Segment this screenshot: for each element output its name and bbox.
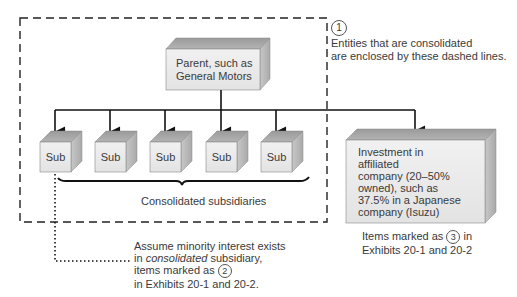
affiliate-line-1: Investment in (358, 146, 423, 158)
minority-note-line4: in Exhibits 20-1 and 20-2. (134, 278, 259, 290)
affiliate-note-line2: Exhibits 20-1 and 20-2 (362, 244, 472, 256)
sub-label-5: Sub (261, 151, 292, 163)
sub-label-1: Sub (40, 151, 71, 163)
affiliate-label: Investment in affiliated company (20–50%… (358, 146, 461, 218)
boundary-note-line2: are enclosed by these dashed lines. (331, 50, 507, 62)
minority-note-line3-prefix: items marked as (134, 264, 215, 276)
affiliate-line-3: company (20–50% (358, 170, 450, 182)
minority-note-line2-prefix: in (134, 252, 143, 264)
minority-note-line2-suffix: subsidiary, (210, 252, 262, 264)
subsidiaries-caption: Consolidated subsidiaries (141, 195, 266, 208)
affiliate-line-2: affiliated (358, 158, 399, 170)
sub-label-4: Sub (206, 151, 237, 163)
marker-1-icon: 1 (331, 20, 347, 36)
parent-label-line1: Parent, such as (176, 57, 252, 69)
sub-label-2: Sub (95, 151, 126, 163)
minority-interest-note: Assume minority interest exists in conso… (134, 240, 286, 290)
minority-interest-leader (55, 174, 130, 261)
minority-note-line2-italic: consolidated (146, 252, 208, 264)
affiliate-line-4: owned), such as (358, 182, 438, 194)
boundary-note-line1: Entities that are consolidated (331, 37, 472, 49)
affiliate-line-6: company (Isuzu) (358, 206, 439, 218)
marker-3-icon: 3 (446, 230, 460, 244)
sub-label-3: Sub (150, 151, 181, 163)
subsidiaries-brace (58, 177, 309, 185)
parent-label-line2: General Motors (176, 70, 252, 82)
affiliate-note: Items marked as 3 in Exhibits 20-1 and 2… (362, 230, 472, 257)
minority-note-line1: Assume minority interest exists (134, 240, 286, 252)
marker-2-icon: 2 (218, 264, 232, 278)
connector-lines (55, 90, 415, 132)
boundary-note: 1 Entities that are consolidated are enc… (331, 20, 507, 63)
affiliate-line-5: 37.5% in a Japanese (358, 194, 461, 206)
affiliate-note-prefix: Items marked as (362, 230, 443, 242)
parent-label: Parent, such as General Motors (176, 57, 252, 83)
affiliate-note-suffix: in (463, 230, 472, 242)
